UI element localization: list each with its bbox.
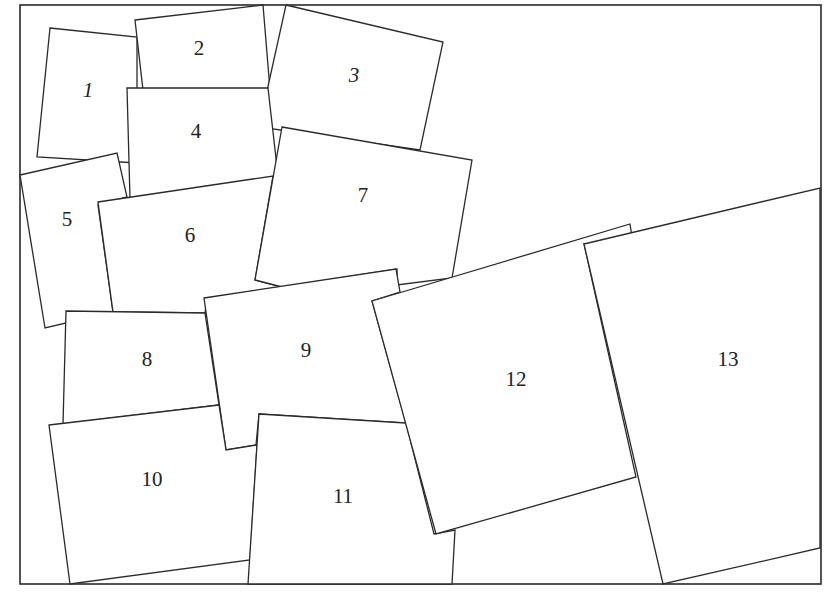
square-number-5: 5 [62,207,73,231]
squares-diagram: 12345678910111213 [0,0,825,594]
square-number-12: 12 [506,367,527,391]
square-13 [584,188,820,584]
square-number-4: 4 [191,119,202,143]
square-number-13: 13 [718,347,739,371]
squares-layer [20,5,820,584]
square-number-7: 7 [358,183,369,207]
square-7 [255,127,472,287]
square-number-11: 11 [333,484,353,508]
square-number-3: 3 [348,63,360,87]
square-number-9: 9 [301,338,312,362]
square-number-6: 6 [185,223,196,247]
square-number-10: 10 [142,467,163,491]
square-number-1: 1 [83,78,94,102]
square-number-8: 8 [142,347,153,371]
square-number-2: 2 [194,36,205,60]
